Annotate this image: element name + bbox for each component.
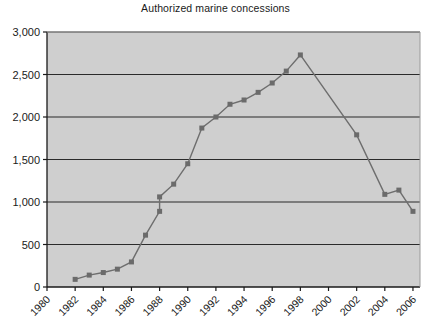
x-axis-tick-label: 1996 — [253, 293, 278, 318]
data-point-marker — [242, 98, 247, 103]
y-axis-tick-label: 2,500 — [12, 69, 40, 81]
x-axis-tick-label: 1986 — [112, 293, 137, 318]
data-point-marker — [199, 126, 204, 131]
data-point-marker — [284, 69, 289, 74]
x-axis-tick-label: 1990 — [168, 293, 193, 318]
x-axis-tick-label: 1980 — [27, 293, 52, 318]
data-point-marker — [171, 182, 176, 187]
x-axis-tick-label: 1982 — [56, 293, 81, 318]
y-axis-labels: 3,0002,5002,0001,5001,0005000 — [12, 26, 40, 293]
data-point-marker — [256, 90, 261, 95]
x-axis-tick-label: 1992 — [196, 293, 221, 318]
data-point-marker — [382, 192, 387, 197]
data-point-marker — [354, 132, 359, 137]
data-point-marker — [396, 188, 401, 193]
data-point-marker — [87, 273, 92, 278]
chart-container: Authorized marine concessions 3,0002,500… — [0, 0, 431, 324]
x-axis-tick-label: 2002 — [337, 293, 362, 318]
x-axis-tick-label: 1984 — [84, 293, 109, 318]
data-point-marker — [227, 102, 232, 107]
data-point-marker — [73, 277, 78, 282]
data-point-marker — [213, 115, 218, 120]
data-point-marker — [270, 81, 275, 86]
data-point-marker — [143, 233, 148, 238]
data-point-marker — [115, 267, 120, 272]
x-axis-tick-label: 2004 — [365, 293, 390, 318]
y-axis-tick-label: 2,000 — [12, 111, 40, 123]
data-point-marker — [410, 209, 415, 214]
data-point-marker — [101, 270, 106, 275]
x-axis-tick-label: 2006 — [393, 293, 418, 318]
y-axis-tick-label: 3,000 — [12, 26, 40, 38]
y-axis-tick-label: 1,000 — [12, 196, 40, 208]
x-axis-tick-label: 1988 — [140, 293, 165, 318]
data-point-marker — [157, 194, 162, 199]
y-axis-tick-label: 1,500 — [12, 154, 40, 166]
y-axis-tick-label: 0 — [34, 281, 40, 293]
x-axis-labels: 1980198219841986198819901992199419961998… — [27, 293, 418, 318]
data-point-marker — [185, 161, 190, 166]
data-point-marker — [157, 209, 162, 214]
y-axis-tick-label: 500 — [22, 239, 40, 251]
x-axis-tick-label: 1994 — [224, 293, 249, 318]
x-axis-tick-label: 2000 — [309, 293, 334, 318]
line-chart: 3,0002,5002,0001,5001,0005000 1980198219… — [0, 0, 431, 324]
data-point-marker — [129, 259, 134, 264]
data-point-marker — [298, 52, 303, 57]
x-axis-tick-label: 1998 — [281, 293, 306, 318]
